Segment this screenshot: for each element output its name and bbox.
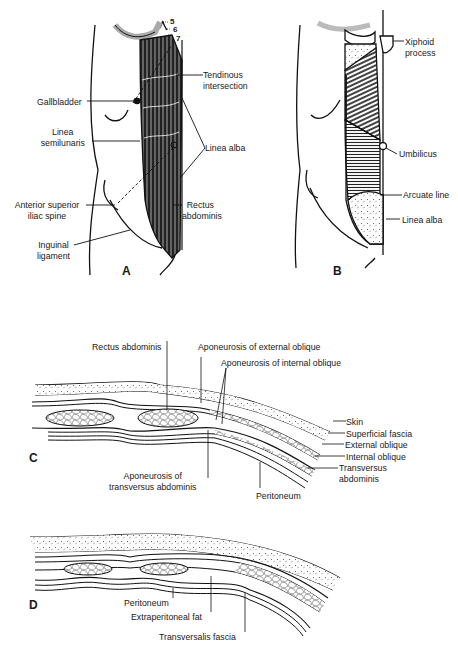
label-extraperitoneal-fat: Extraperitoneal fat (131, 611, 202, 622)
panel-letter-d: D (29, 598, 38, 612)
rib-number-7: 7 (176, 34, 180, 43)
label-rectus-abdominis-c: Rectus abdominis (92, 341, 161, 352)
label-internal-oblique: Internal oblique (346, 451, 406, 462)
label-line: Anterior superior (12, 199, 82, 210)
label-line: semilunaris (37, 137, 89, 148)
label-inguinal-ligament: Inguinal ligament (36, 239, 71, 261)
label-linea-semilunaris: Linea semilunaris (37, 126, 89, 148)
label-line: Rectus (182, 199, 219, 210)
label-rectus-abdominis-a: Rectus abdominis (182, 199, 219, 221)
label-external-oblique: External oblique (345, 439, 408, 450)
panel-letter-b: B (333, 264, 342, 278)
label-line: abdominis (339, 473, 387, 484)
label-peritoneum-d: Peritoneum (124, 597, 169, 608)
panel-b-drawing (295, 10, 393, 268)
label-line: transversus abdominis (104, 481, 202, 492)
label-transversus-abdominis: Transversus abdominis (339, 462, 387, 484)
label-line: process (405, 47, 436, 58)
label-line: iliac spine (12, 210, 82, 221)
label-line: Xiphoid (405, 36, 436, 47)
label-transversalis-fascia: Transversalis fascia (159, 631, 236, 642)
panel-letter-c: C (29, 451, 38, 465)
label-umbilicus: Umbilicus (399, 148, 437, 159)
label-line: Aponeurosis of (104, 470, 202, 481)
label-anterior-superior-iliac-spine: Anterior superior iliac spine (12, 199, 82, 221)
label-line: Linea (37, 126, 89, 137)
label-peritoneum-c: Peritoneum (256, 490, 301, 501)
rib-number-6: 6 (173, 25, 177, 34)
label-superficial-fascia: Superficial fascia (346, 428, 412, 439)
label-linea-alba-a: Linea alba (205, 142, 245, 153)
label-aponeurosis-internal-oblique: Aponeurosis of internal oblique (221, 357, 341, 368)
label-line: intersection (203, 80, 248, 91)
label-line: Transversus (339, 462, 387, 473)
label-tendinous-intersection: Tendinous intersection (203, 69, 248, 91)
label-aponeurosis-external-oblique: Aponeurosis of external oblique (198, 341, 320, 352)
label-skin: Skin (346, 416, 363, 427)
label-line: Tendinous (203, 69, 248, 80)
label-line: ligament (36, 250, 71, 261)
label-arcuate-line: Arcuate line (403, 189, 449, 200)
label-line: Inguinal (36, 239, 71, 250)
label-xiphoid-process: Xiphoid process (405, 36, 436, 58)
label-gallbladder: Gallbladder (37, 96, 82, 107)
label-linea-alba-b: Linea alba (402, 214, 442, 225)
label-aponeurosis-transversus-abdominis: Aponeurosis of transversus abdominis (104, 470, 202, 492)
label-line: abdominis (182, 210, 219, 221)
panel-letter-a: A (122, 264, 131, 278)
